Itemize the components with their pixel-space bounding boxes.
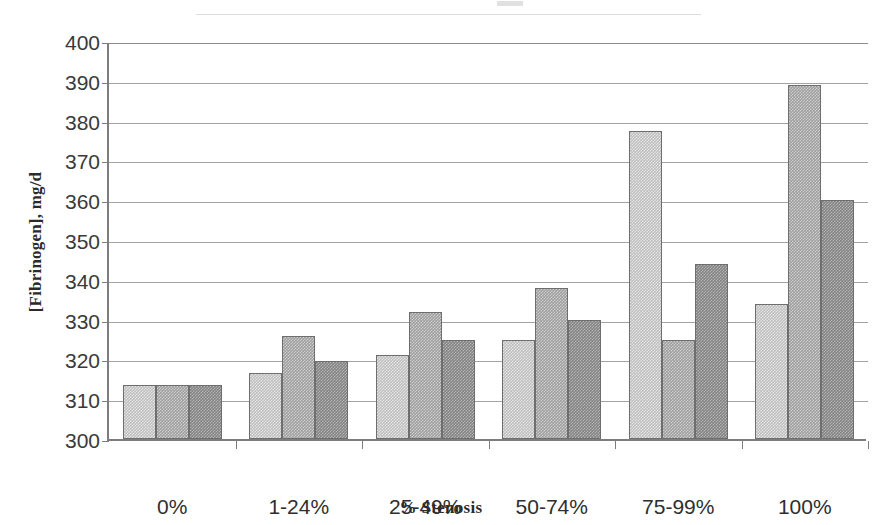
bar-100-series-3 [821, 200, 854, 439]
x-axis-separator-tick [489, 441, 490, 449]
gridline [109, 322, 868, 323]
bar-50-74-series-3 [568, 320, 601, 439]
x-axis-separator-tick [742, 441, 743, 449]
bar-25-49-series-1 [376, 355, 409, 439]
x-axis-separator-tick [615, 441, 616, 449]
bar-50-74-series-1 [502, 340, 535, 440]
x-axis-separator-tick [868, 441, 869, 449]
gridline [109, 83, 868, 84]
gridline [109, 282, 868, 283]
x-axis-separator-tick [236, 441, 237, 449]
y-axis-tick-mark [102, 242, 109, 243]
y-axis-tick-label: 340 [65, 270, 100, 294]
y-axis-tick-mark [102, 361, 109, 362]
bar-100-series-2 [788, 85, 821, 439]
y-axis-tick-label: 380 [65, 111, 100, 135]
y-axis-tick-label: 350 [65, 230, 100, 254]
y-axis-tick-label: 360 [65, 190, 100, 214]
y-axis-tick-mark [102, 162, 109, 163]
y-axis-tick-mark [102, 282, 109, 283]
y-axis-tick-mark [102, 441, 109, 442]
plot-area: 4003903803703603503403303203103000%1-24%… [107, 43, 866, 441]
bar-25-49-series-2 [409, 312, 442, 439]
gridline [109, 162, 868, 163]
y-axis-tick-label: 310 [65, 389, 100, 413]
y-axis-tick-label: 330 [65, 310, 100, 334]
bar-50-74-series-2 [535, 288, 568, 439]
bar-0-series-2 [156, 385, 189, 439]
y-axis-tick-mark [102, 322, 109, 323]
bar-25-49-series-3 [442, 340, 475, 440]
bar-1-24-series-1 [249, 373, 282, 439]
gridline [109, 401, 868, 402]
bar-1-24-series-3 [315, 361, 348, 439]
x-axis-separator-tick [362, 441, 363, 449]
top-divider-rule [196, 14, 701, 15]
gridline [109, 361, 868, 362]
y-axis-tick-label: 320 [65, 349, 100, 373]
y-axis-tick-mark [102, 123, 109, 124]
y-axis-tick-mark [102, 83, 109, 84]
bar-0-series-1 [123, 385, 156, 439]
gridline [109, 202, 868, 203]
y-axis-tick-mark [102, 401, 109, 402]
bar-1-24-series-2 [282, 336, 315, 439]
y-axis-tick-mark [102, 43, 109, 44]
bar-75-99-series-2 [662, 340, 695, 440]
y-axis-tick-label: 390 [65, 71, 100, 95]
y-axis-title: [Fibrinogen], mg/d [26, 132, 46, 352]
y-axis-tick-label: 370 [65, 150, 100, 174]
y-axis-tick-label: 400 [65, 31, 100, 55]
y-axis-tick-mark [102, 202, 109, 203]
x-axis-title: % Stenosis [0, 498, 882, 518]
gridline [109, 43, 868, 44]
gridline [109, 242, 868, 243]
y-axis-tick-label: 300 [65, 429, 100, 453]
bar-75-99-series-1 [629, 131, 662, 439]
bar-100-series-1 [755, 304, 788, 439]
bar-0-series-3 [189, 385, 222, 439]
cropped-title-remnant [497, 1, 523, 6]
bar-75-99-series-3 [695, 264, 728, 439]
fibrinogen-stenosis-bar-chart: [Fibrinogen], mg/d 400390380370360350340… [0, 0, 882, 525]
gridline [109, 123, 868, 124]
